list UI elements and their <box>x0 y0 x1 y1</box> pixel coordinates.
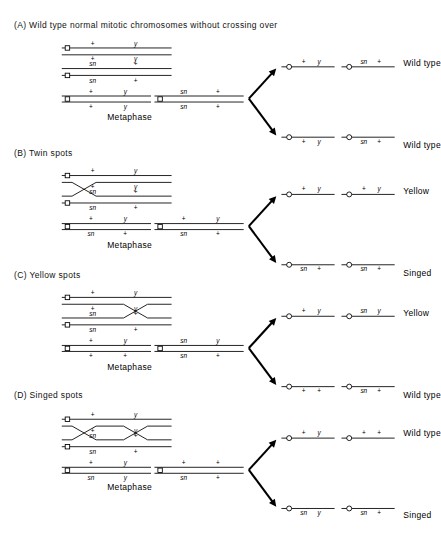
allele-bottom-1: sn <box>180 230 187 237</box>
allele-1: sn <box>360 58 367 65</box>
daughter-top-chromosome-left: +y <box>281 185 334 197</box>
chromatid-inner-lower <box>62 426 172 440</box>
allele-top-2: y <box>215 215 220 223</box>
allele-top-2: y <box>123 215 128 223</box>
centromere <box>65 346 69 350</box>
centromere <box>65 224 69 228</box>
daughter-bottom-chromosome-left: +y <box>281 135 334 146</box>
allele-2: + <box>377 429 381 436</box>
centromere <box>347 506 352 511</box>
panel-diagram-a: +y+ysn+sn++y+ysn+sn++ysn++ysn+ <box>0 20 429 148</box>
centromere-lower <box>65 323 69 327</box>
allele-upper-top-2: y <box>133 411 138 419</box>
allele-1: + <box>362 185 366 192</box>
arrow-to-bottom-daughter <box>249 99 273 132</box>
allele-bottom-1: sn <box>180 103 187 110</box>
allele-2: y <box>317 307 322 315</box>
allele-lower-top-1: sn <box>89 60 96 67</box>
metaphase-chromosome-right: sn+sn+ <box>154 88 243 110</box>
panel-c: (C) Yellow spots+y+ysn+sn++y++snysn++ysn… <box>0 270 429 390</box>
arrow-to-bottom-daughter <box>249 226 273 259</box>
allele-lower-top-1: sn <box>89 188 96 195</box>
metaphase-chromosome-left: +y+y <box>62 88 151 111</box>
allele-bottom-1: + <box>89 103 93 110</box>
centromere-upper <box>65 46 69 50</box>
daughter-top-chromosome-right: +y <box>341 185 394 197</box>
centromere-lower <box>65 201 69 205</box>
centromere <box>287 64 292 69</box>
allele-lower-bottom-1: sn <box>89 77 96 84</box>
allele-lower-top-1: sn <box>89 310 96 317</box>
allele-top-1: + <box>89 215 93 222</box>
allele-2: y <box>377 307 382 315</box>
panel-diagram-b: +y+ysn+sn++ysn++ysn++y+ysn+sn+ <box>0 148 429 270</box>
metaphase-chromosome-right: snysn+ <box>154 337 243 359</box>
metaphase-label: Metaphase <box>107 240 152 250</box>
metaphase-label: Metaphase <box>107 482 152 492</box>
metaphase-label: Metaphase <box>107 112 152 122</box>
allele-upper-top-1: + <box>91 40 95 47</box>
chromatid-inner-upper <box>62 182 172 196</box>
allele-2: y <box>317 185 322 193</box>
centromere <box>287 192 292 197</box>
allele-bottom-2: y <box>123 103 128 111</box>
centromere <box>347 384 352 389</box>
allele-top-2: y <box>123 459 128 467</box>
centromere <box>158 346 162 350</box>
daughter-bottom-chromosome-right: sn+ <box>341 506 394 516</box>
allele-top-1: + <box>182 215 186 222</box>
allele-top-1: + <box>89 88 93 95</box>
allele-bottom-1: sn <box>180 474 187 481</box>
allele-bottom-2: + <box>216 103 220 110</box>
allele-lower-top-1: sn <box>89 432 96 439</box>
prophase-group: +y+ysn+sn+ <box>62 167 172 211</box>
allele-top-1: + <box>89 459 93 466</box>
panel-a: (A) Wild type normal mitotic chromosomes… <box>0 20 429 148</box>
centromere <box>65 468 69 472</box>
centromere <box>287 135 292 140</box>
allele-bottom-2: + <box>123 352 127 359</box>
allele-lower-bottom-2: + <box>134 326 138 333</box>
allele-1: + <box>302 429 306 436</box>
allele-bottom-1: sn <box>180 352 187 359</box>
metaphase-chromosome-left: +ysny <box>62 459 151 482</box>
allele-bottom-1: sn <box>88 474 95 481</box>
allele-1: + <box>302 58 306 65</box>
allele-upper-top-2: y <box>133 40 138 48</box>
allele-top-1: + <box>89 337 93 344</box>
centromere-upper <box>65 173 69 177</box>
arrow-to-top-daughter <box>249 444 273 470</box>
metaphase-chromosome-left: +ysn+ <box>62 215 151 237</box>
allele-bottom-2: + <box>216 352 220 359</box>
allele-bottom-2: + <box>123 230 127 237</box>
allele-lower-top-2: + <box>134 310 138 317</box>
allele-top-1: + <box>182 459 186 466</box>
panel-diagram-d: +y+ysn+sn++ysny++sn++y++snysn+ <box>0 390 429 536</box>
daughter-bottom-chromosome-right: sn+ <box>341 135 394 145</box>
allele-1: sn <box>300 509 307 516</box>
prophase-group: +y+ysn+sn+ <box>62 411 172 455</box>
allele-upper-top-2: y <box>133 167 138 175</box>
allele-2: y <box>317 58 322 66</box>
metaphase-chromosome-left: +y++ <box>62 337 151 359</box>
allele-top-2: + <box>216 88 220 95</box>
centromere-upper <box>65 417 69 421</box>
allele-bottom-2: + <box>216 230 220 237</box>
panel-d: (D) Singed spots+y+ysn+sn++ysny++sn++y++… <box>0 390 429 536</box>
allele-1: sn <box>360 509 367 516</box>
panel-b: (B) Twin spots+y+ysn+sn++ysn++ysn++y+ysn… <box>0 148 429 270</box>
allele-1: sn <box>360 307 367 314</box>
allele-top-1: sn <box>180 88 187 95</box>
arrow-to-bottom-daughter <box>249 348 273 381</box>
allele-1: sn <box>360 138 367 145</box>
arrow-to-top-daughter <box>249 322 273 348</box>
allele-upper-top-2: y <box>133 289 138 297</box>
chromatid-inner-upper <box>62 304 172 318</box>
allele-1: + <box>302 307 306 314</box>
centromere <box>287 436 292 441</box>
allele-lower-bottom-1: sn <box>89 326 96 333</box>
allele-lower-top-2: + <box>134 60 138 67</box>
allele-lower-top-2: + <box>134 432 138 439</box>
allele-2: y <box>317 138 322 146</box>
